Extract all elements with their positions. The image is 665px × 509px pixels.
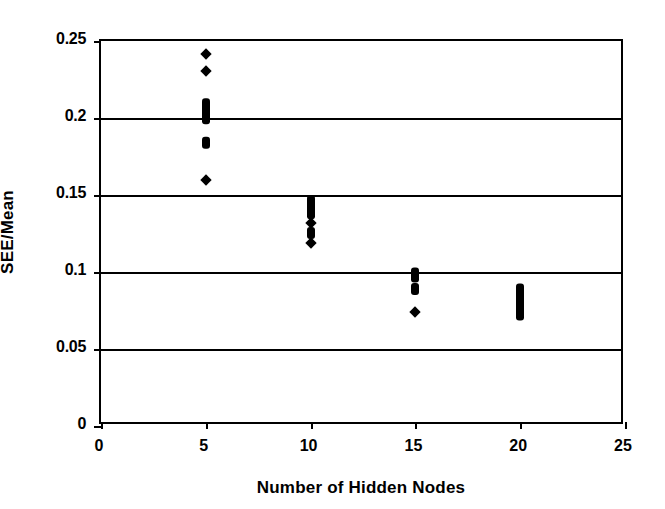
- x-tick-label-25: 25: [614, 438, 632, 454]
- data-point: [200, 65, 211, 76]
- x-tick-25: [625, 422, 627, 429]
- y-tick-0.05: [94, 349, 101, 351]
- data-point: [516, 283, 524, 320]
- data-point: [410, 306, 421, 317]
- y-tick-label-0.25: 0.25: [0, 31, 86, 47]
- plot-area: [99, 39, 623, 424]
- y-tick-0.2: [94, 118, 101, 120]
- y-tick-label-0.1: 0.1: [0, 262, 86, 278]
- x-tick-15: [415, 422, 417, 429]
- y-tick-label-0.15: 0.15: [0, 185, 86, 201]
- x-tick-5: [206, 422, 208, 429]
- data-point: [305, 237, 316, 248]
- data-point: [411, 268, 419, 283]
- y-tick-label-0.2: 0.2: [0, 108, 86, 124]
- x-tick-label-0: 0: [95, 438, 104, 454]
- y-tick-0.15: [94, 195, 101, 197]
- y-tick-label-0: 0: [0, 416, 86, 432]
- data-point: [202, 136, 210, 149]
- data-point: [200, 48, 211, 59]
- gridline-y-0.2: [101, 118, 621, 120]
- data-point: [202, 99, 210, 125]
- y-tick-0: [94, 426, 101, 428]
- data-point: [200, 174, 211, 185]
- x-tick-20: [520, 422, 522, 429]
- x-tick-label-15: 15: [404, 438, 422, 454]
- y-tick-0.25: [94, 41, 101, 43]
- y-tick-0.1: [94, 272, 101, 274]
- gridline-y-0.15: [101, 195, 621, 197]
- x-tick-0: [101, 422, 103, 429]
- x-tick-10: [311, 422, 313, 429]
- data-point: [307, 196, 315, 219]
- gridline-y-0.1: [101, 272, 621, 274]
- y-tick-label-0.05: 0.05: [0, 339, 86, 355]
- data-point: [411, 283, 419, 295]
- scatter-chart-figure: SEE/Mean 00.050.10.150.20.25 0510152025 …: [0, 0, 665, 509]
- gridline-y-0.05: [101, 349, 621, 351]
- x-tick-label-5: 5: [199, 438, 208, 454]
- x-tick-label-20: 20: [509, 438, 527, 454]
- x-tick-label-10: 10: [300, 438, 318, 454]
- x-axis-title: Number of Hidden Nodes: [257, 478, 465, 498]
